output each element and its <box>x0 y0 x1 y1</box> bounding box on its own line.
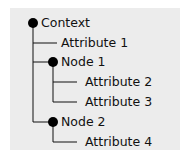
node-1-dot-icon <box>48 57 58 67</box>
attribute-1-label: Attribute 1 <box>61 36 128 50</box>
context-label: Context <box>41 16 90 30</box>
context-node-dot-icon <box>28 18 38 28</box>
attribute-4-label: Attribute 4 <box>85 135 152 149</box>
node-2-label: Node 2 <box>61 115 106 129</box>
attribute-2-label: Attribute 2 <box>85 75 152 89</box>
attribute-3-label: Attribute 3 <box>85 95 152 109</box>
node-1-label: Node 1 <box>61 55 106 69</box>
node-2-dot-icon <box>48 117 58 127</box>
